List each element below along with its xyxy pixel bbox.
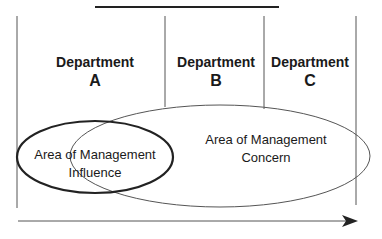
influence-label: Area of Management Influence	[22, 146, 168, 182]
department-c-title: Department	[271, 54, 349, 70]
department-a-title: Department	[56, 54, 134, 70]
management-areas-diagram	[0, 0, 382, 239]
department-b-label: Department B	[166, 54, 266, 91]
department-b-title: Department	[177, 54, 255, 70]
influence-line1: Area of Management	[22, 146, 168, 164]
department-c-label: Department C	[262, 54, 358, 91]
department-c-letter: C	[262, 71, 358, 91]
department-b-letter: B	[166, 71, 266, 91]
concern-line2: Concern	[196, 149, 336, 167]
concern-label: Area of Management Concern	[196, 131, 336, 167]
concern-line1: Area of Management	[196, 131, 336, 149]
department-a-label: Department A	[40, 54, 150, 91]
influence-line2: Influence	[22, 164, 168, 182]
department-a-letter: A	[40, 71, 150, 91]
